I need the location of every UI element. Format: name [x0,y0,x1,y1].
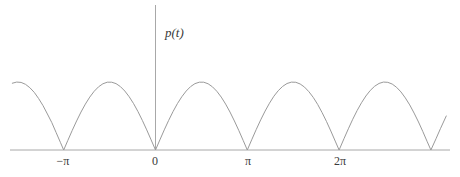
x-tick-label-2pi: 2π [323,155,357,167]
y-axis-label: p(t) [165,26,184,39]
rectified-sine-figure: p(t) −π 0 π 2π [0,0,460,177]
x-tick-label-zero: 0 [140,155,170,167]
data-curve-rectified-sine [12,82,446,150]
x-tick-label-neg-pi: −π [45,155,81,167]
plot-canvas [0,0,460,177]
x-tick-label-pi: π [233,155,263,167]
